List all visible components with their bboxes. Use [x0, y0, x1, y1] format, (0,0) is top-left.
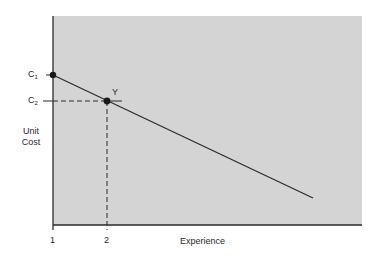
y-point	[104, 98, 111, 105]
x-axis-label: Experience	[180, 236, 225, 246]
y-axis-label-line1: Unit	[18, 126, 44, 137]
y-axis-label-line2: Cost	[18, 137, 44, 148]
x-tick-1-label: 1	[50, 235, 55, 245]
plot-area	[53, 16, 362, 225]
c2-label: C2	[28, 95, 38, 108]
c1-label: C1	[28, 69, 38, 82]
point-y-label: Y	[112, 87, 118, 97]
chart-canvas	[0, 0, 377, 260]
y-axis-label: Unit Cost	[18, 126, 44, 148]
x-tick-2-label: 2	[104, 235, 109, 245]
c1-point	[50, 72, 56, 78]
